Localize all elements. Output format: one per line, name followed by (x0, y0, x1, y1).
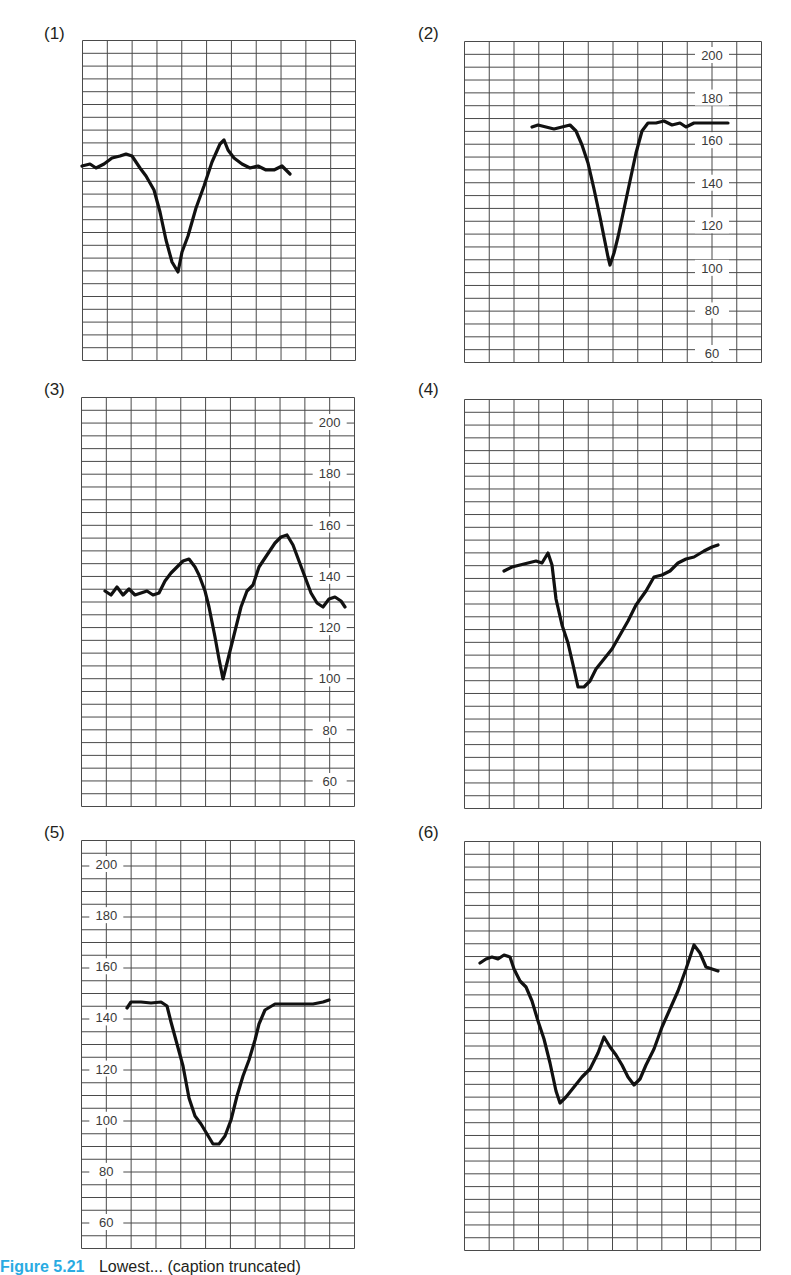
y-tick-label: 100 (319, 671, 341, 686)
y-tick-label: 120 (95, 1062, 117, 1077)
figure-caption: Figure 5.21 Lowest... (caption truncated… (0, 1258, 301, 1275)
y-tick-label: 100 (95, 1113, 117, 1128)
y-tick-label: 80 (705, 303, 719, 318)
grid (465, 842, 761, 1251)
heart-rate-trace (127, 1000, 329, 1144)
y-tick-label: 120 (319, 620, 341, 635)
grid (82, 841, 355, 1249)
y-tick-label: 60 (705, 346, 719, 361)
panel-label-4: (4) (418, 380, 439, 400)
panel-label-1: (1) (44, 24, 65, 44)
y-tick-label: 80 (99, 1164, 113, 1179)
y-tick-label: 160 (701, 133, 723, 148)
panel-label-3: (3) (44, 380, 65, 400)
heart-rate-trace (105, 535, 345, 679)
heart-rate-trace (480, 945, 718, 1103)
y-tick-label: 120 (701, 218, 723, 233)
y-tick-label: 100 (701, 261, 723, 276)
y-tick-label: 160 (319, 518, 341, 533)
y-tick-label: 200 (95, 857, 117, 872)
panel-label-5: (5) (44, 823, 65, 843)
grid (82, 398, 355, 807)
y-tick-label: 60 (322, 774, 336, 789)
chart-panel-2: 2001801601401201008060 (464, 41, 762, 363)
y-tick-label: 160 (95, 959, 117, 974)
heart-rate-trace (82, 140, 290, 272)
y-tick-label: 140 (95, 1010, 117, 1025)
chart-panel-5: 2001801601401201008060 (81, 840, 355, 1249)
grid (83, 41, 356, 361)
y-tick-label: 60 (99, 1215, 113, 1230)
figure-caption-text: Lowest... (caption truncated) (99, 1258, 301, 1275)
y-tick-label: 80 (322, 723, 336, 738)
y-tick-label: 200 (701, 48, 723, 63)
grid (465, 400, 762, 809)
y-tick-label: 140 (319, 569, 341, 584)
y-tick-label: 200 (319, 415, 341, 430)
y-tick-label: 140 (701, 176, 723, 191)
heart-rate-trace (504, 545, 718, 687)
chart-panel-3: 2001801601401201008060 (81, 397, 355, 807)
panel-label-2: (2) (418, 24, 439, 44)
chart-panel-4 (464, 399, 762, 809)
y-tick-label: 180 (95, 908, 117, 923)
chart-panel-1 (82, 40, 356, 361)
panel-label-6: (6) (418, 823, 439, 843)
y-tick-label: 180 (319, 466, 341, 481)
figure-number: Figure 5.21 (0, 1258, 84, 1275)
chart-panel-6 (464, 841, 761, 1251)
y-tick-label: 180 (701, 91, 723, 106)
